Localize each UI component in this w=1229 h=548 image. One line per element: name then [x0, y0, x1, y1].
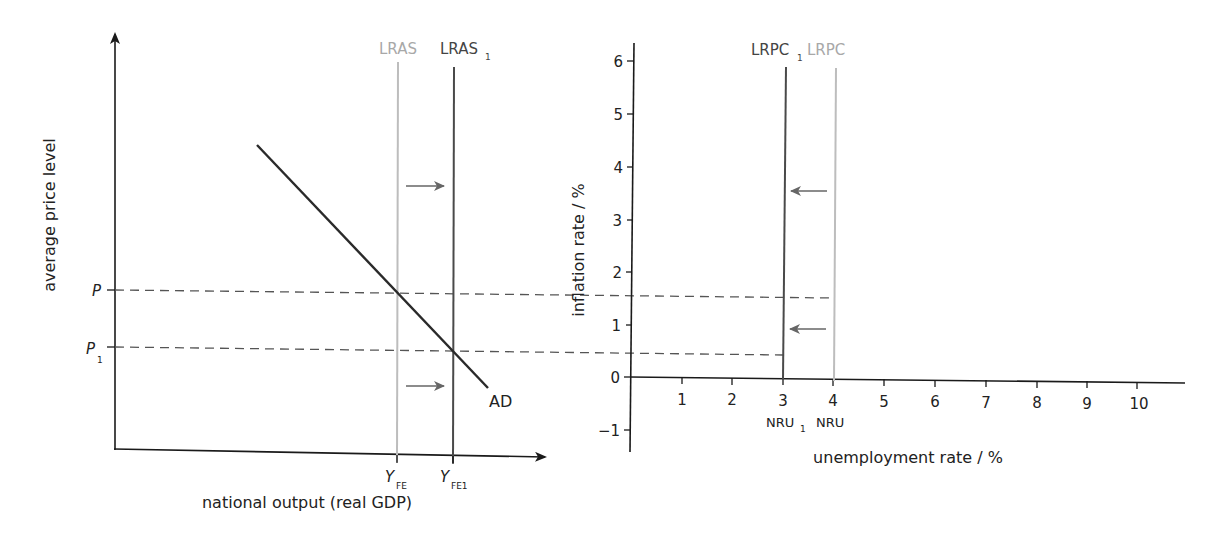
svg-text:5: 5: [879, 393, 889, 411]
lrpc-chart: 6 5 4 3 2 1 0 −1 1 2 3 4 5: [569, 41, 1185, 467]
svg-text:2: 2: [727, 391, 737, 409]
label-yfe1: Y: [440, 468, 451, 486]
label-ad: AD: [489, 392, 512, 411]
figure: average price level national output (rea…: [0, 0, 1229, 548]
left-x-axis: [114, 449, 545, 457]
svg-text:0: 0: [610, 369, 620, 387]
right-x-axis-title: unemployment rate / %: [813, 448, 1003, 467]
svg-text:2: 2: [612, 264, 622, 282]
label-nru: NRU: [816, 415, 844, 430]
svg-text:3: 3: [778, 392, 788, 410]
svg-text:6: 6: [613, 53, 623, 71]
label-lrpc1-sub: 1: [797, 53, 803, 63]
label-nru1: NRU: [766, 415, 794, 430]
left-y-axis-title: average price level: [40, 138, 59, 292]
ad-lras-chart: average price level national output (rea…: [40, 34, 833, 512]
svg-text:1: 1: [677, 391, 687, 409]
label-nru1-sub: 1: [800, 424, 806, 434]
left-x-axis-title: national output (real GDP): [202, 493, 412, 512]
right-x-axis: [630, 377, 1185, 383]
svg-text:10: 10: [1129, 395, 1148, 413]
svg-text:7: 7: [981, 394, 991, 412]
label-lras1-sub: 1: [485, 52, 491, 62]
dashed-level-p: [115, 290, 833, 298]
label-lras: LRAS: [379, 40, 417, 58]
label-p1: P: [86, 340, 96, 358]
svg-text:3: 3: [612, 212, 622, 230]
label-lrpc: LRPC: [807, 41, 845, 59]
svg-text:4: 4: [613, 159, 623, 177]
svg-text:1: 1: [611, 317, 621, 335]
svg-text:5: 5: [613, 106, 623, 124]
svg-text:4: 4: [828, 392, 838, 410]
lras-curve: [397, 62, 398, 462]
lrpc-curve: [834, 68, 836, 381]
right-y-axis: [630, 43, 634, 452]
right-x-tick-labels: 1 2 3 4 5 6 7 8 9 10: [677, 391, 1148, 413]
label-p1-sub: 1: [97, 355, 103, 365]
label-yfe1-sub: FE1: [451, 481, 468, 491]
lras1-curve: [453, 67, 454, 463]
svg-text:8: 8: [1032, 394, 1042, 412]
label-lras1: LRAS: [440, 40, 478, 58]
label-lrpc1: LRPC: [751, 41, 789, 59]
right-y-tick-labels: 6 5 4 3 2 1 0 −1: [598, 53, 623, 440]
svg-text:9: 9: [1082, 395, 1092, 413]
label-yfe: Y: [385, 468, 396, 486]
lrpc1-curve: [783, 67, 786, 380]
label-yfe-sub: FE: [396, 481, 407, 491]
svg-text:−1: −1: [598, 422, 620, 440]
label-p: P: [92, 282, 102, 300]
right-y-axis-title: inflation rate / %: [569, 183, 588, 316]
svg-text:6: 6: [930, 393, 940, 411]
